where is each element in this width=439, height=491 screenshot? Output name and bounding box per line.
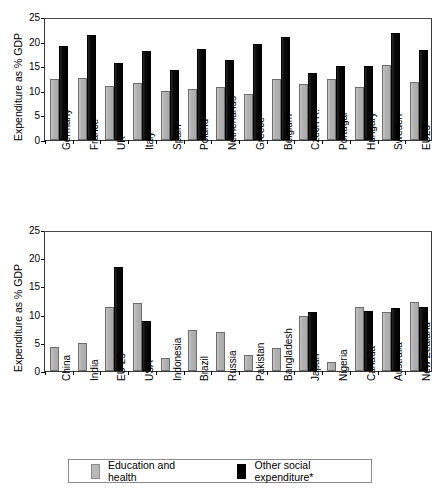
x-axis-tick-mark bbox=[211, 371, 212, 375]
legend-swatch-other-social-expenditure bbox=[237, 464, 246, 479]
bar-black bbox=[142, 51, 151, 140]
bar-group bbox=[128, 232, 156, 371]
y-axis-tick-label: 25 bbox=[29, 13, 40, 23]
x-axis-tick-label: India bbox=[90, 359, 100, 381]
bar-gray bbox=[355, 87, 364, 140]
y-axis-tick-label: 20 bbox=[29, 38, 40, 48]
x-axis-tick-label: Poland bbox=[200, 119, 210, 150]
bar-gray bbox=[355, 307, 364, 371]
legend-label-other-social-expenditure: Other social expenditure* bbox=[254, 459, 371, 483]
x-axis-tick-label: Russia bbox=[228, 350, 238, 381]
bar-gray bbox=[327, 79, 336, 140]
x-axis-tick-label: Australia bbox=[394, 342, 404, 381]
x-axis-tick-label: Sweden bbox=[394, 114, 404, 150]
x-axis-tick-label: Nigeria bbox=[339, 349, 349, 381]
y-axis-tick-label: 15 bbox=[29, 282, 40, 292]
legend-label-education-and-health: Education and health bbox=[108, 459, 205, 483]
x-axis-tick-label: Italy bbox=[145, 132, 155, 150]
bar-gray bbox=[272, 79, 281, 140]
y-axis-tick-labels: 0510152025 bbox=[14, 231, 40, 372]
bar-gray bbox=[327, 362, 336, 371]
x-axis-tick-mark bbox=[100, 140, 101, 144]
bar-gray bbox=[50, 347, 59, 371]
x-axis-tick-mark bbox=[156, 140, 157, 144]
y-axis-tick-label: 20 bbox=[29, 254, 40, 264]
bar-gray bbox=[105, 307, 114, 371]
x-axis-tick-mark bbox=[350, 140, 351, 144]
bar-group bbox=[100, 232, 128, 371]
bar-group bbox=[45, 232, 73, 371]
bar-gray bbox=[244, 355, 253, 371]
x-axis-tick-mark bbox=[294, 140, 295, 144]
bar-gray bbox=[105, 86, 114, 140]
y-axis-tick-label: 10 bbox=[29, 311, 40, 321]
x-axis-tick-label: Belgium bbox=[284, 114, 294, 150]
x-axis-tick-mark bbox=[128, 371, 129, 375]
x-axis-tick-mark bbox=[211, 140, 212, 144]
x-axis-tick-label: Brazil bbox=[200, 356, 210, 381]
bar-gray bbox=[410, 82, 419, 140]
x-axis-tick-mark bbox=[184, 140, 185, 144]
y-axis-tick-label: 15 bbox=[29, 62, 40, 72]
x-axis-tick-label: Japan bbox=[311, 354, 321, 381]
x-axis-tick-label: Spain bbox=[173, 124, 183, 150]
x-axis-tick-mark bbox=[100, 371, 101, 375]
bar-group bbox=[294, 232, 322, 371]
x-axis-tick-label: EU25 bbox=[422, 125, 432, 150]
x-axis-tick-label: Canada bbox=[367, 346, 377, 381]
bar-gray bbox=[272, 348, 281, 371]
y-axis-tick-label: 10 bbox=[29, 87, 40, 97]
bar-group bbox=[128, 19, 156, 140]
y-axis-tick-label: 0 bbox=[34, 136, 40, 146]
x-axis-tick-mark bbox=[378, 140, 379, 144]
x-axis-tick-label: Bangladesh bbox=[284, 328, 294, 381]
bar-gray bbox=[78, 343, 87, 371]
bar-gray bbox=[216, 87, 225, 140]
x-axis-tick-mark bbox=[405, 371, 406, 375]
bar-group bbox=[100, 19, 128, 140]
bar-gray bbox=[382, 65, 391, 140]
x-axis-tick-mark bbox=[128, 140, 129, 144]
x-axis-tick-mark bbox=[267, 140, 268, 144]
bar-group bbox=[156, 19, 184, 140]
x-axis-tick-mark bbox=[73, 371, 74, 375]
legend-entry-other-social-expenditure: Other social expenditure* bbox=[237, 459, 371, 483]
bar-gray bbox=[188, 89, 197, 140]
y-axis-tick-label: 0 bbox=[34, 367, 40, 377]
bar-black bbox=[114, 63, 123, 140]
bar-group bbox=[73, 232, 101, 371]
bar-gray bbox=[161, 358, 170, 371]
bar-gray bbox=[188, 330, 197, 371]
figure-expenditure-charts: Expenditure as % GDP 0510152025 GermanyF… bbox=[0, 0, 439, 491]
x-axis-tick-label: Czech R. bbox=[311, 109, 321, 150]
x-axis-tick-label: USA bbox=[145, 360, 155, 381]
x-axis-tick-label: UK bbox=[117, 136, 127, 150]
x-axis-tick-mark bbox=[45, 371, 46, 375]
y-axis-tick-labels: 0510152025 bbox=[14, 18, 40, 141]
x-axis-tick-label: Netherlands bbox=[228, 96, 238, 150]
x-axis-tick-label: China bbox=[62, 355, 72, 381]
bar-gray bbox=[161, 91, 170, 140]
y-axis-tick-label: 5 bbox=[34, 339, 40, 349]
x-axis-tick-mark bbox=[405, 140, 406, 144]
x-axis-tick-mark bbox=[322, 371, 323, 375]
bar-gray bbox=[216, 332, 225, 371]
bar-gray bbox=[133, 303, 142, 371]
bar-gray bbox=[382, 312, 391, 371]
bar-group bbox=[405, 19, 433, 140]
chart-panel-world-countries: Expenditure as % GDP 0510152025 ChinaInd… bbox=[0, 213, 439, 445]
x-axis-tick-mark bbox=[239, 140, 240, 144]
bar-gray bbox=[299, 84, 308, 140]
y-axis-tick-label: 5 bbox=[34, 111, 40, 121]
bar-group bbox=[184, 232, 212, 371]
x-axis-tick-mark bbox=[239, 371, 240, 375]
x-axis-tick-mark bbox=[294, 371, 295, 375]
chart-legend: Education and health Other social expend… bbox=[68, 459, 372, 483]
x-axis-tick-label: Indonesia bbox=[173, 338, 183, 381]
x-axis-tick-label: France bbox=[90, 119, 100, 150]
x-axis-tick-label: Greece bbox=[256, 117, 266, 150]
x-axis-tick-label: EU 25 bbox=[117, 353, 127, 381]
x-axis-tick-label: New Zealand bbox=[422, 322, 432, 381]
x-axis-tick-mark bbox=[322, 140, 323, 144]
y-axis-tick-label: 25 bbox=[29, 226, 40, 236]
